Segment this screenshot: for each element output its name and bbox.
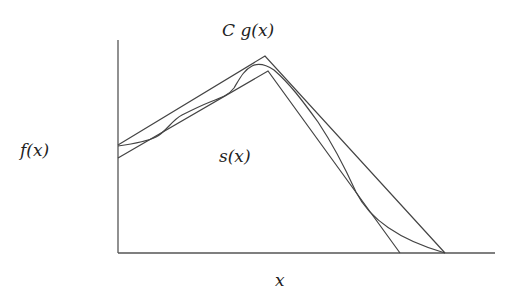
label-squeeze-s: s(x) [219,148,251,165]
rejection-sampling-diagram [0,0,524,305]
label-target-f: f(x) [20,142,49,159]
label-x-axis: x [275,272,285,289]
target-curve-f [118,64,445,253]
squeeze-curve-s [118,71,400,253]
envelope-curve-cg [118,56,445,253]
label-envelope-cg: C g(x) [222,22,274,39]
